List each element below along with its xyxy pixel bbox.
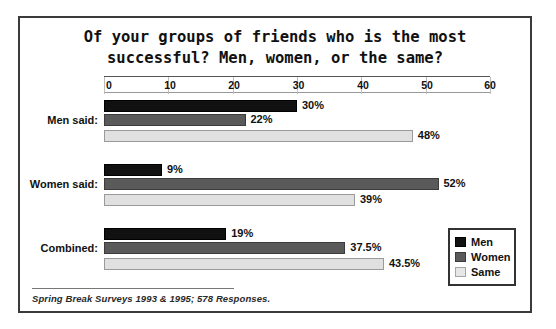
bar-value-women-said-same: 39% xyxy=(360,193,382,205)
legend-label-women: Women xyxy=(471,251,511,263)
bar-combined-same xyxy=(104,258,384,270)
x-axis-label-50: 50 xyxy=(421,79,433,91)
bar-men-said-men xyxy=(104,100,297,112)
bar-value-combined-men: 19% xyxy=(231,227,253,239)
bar-men-said-same xyxy=(104,130,413,142)
legend-item-men: Men xyxy=(455,234,509,249)
x-axis-label-20: 20 xyxy=(228,79,240,91)
legend-item-women: Women xyxy=(455,249,509,264)
chart-title-line-1: Of your groups of friends who is the mos… xyxy=(20,27,530,48)
bar-value-men-said-women: 22% xyxy=(251,113,273,125)
plot-area: 0 10 20 30 40 50 60 Men said: 30% 22% 48… xyxy=(104,76,490,286)
bar-value-men-said-men: 30% xyxy=(302,99,324,111)
bar-men-said-women xyxy=(104,114,246,126)
bar-value-men-said-same: 48% xyxy=(418,129,440,141)
footnote: Spring Break Surveys 1993 & 1995; 578 Re… xyxy=(32,293,270,304)
bar-women-said-same xyxy=(104,194,355,206)
bar-combined-women xyxy=(104,242,345,254)
chart-title-line-2: successful? Men, women, or the same? xyxy=(20,48,530,69)
bar-value-combined-same: 43.5% xyxy=(389,257,420,269)
footnote-divider xyxy=(32,288,234,289)
x-axis-label-0: 0 xyxy=(106,79,112,91)
bar-women-said-women xyxy=(104,178,439,190)
legend-label-men: Men xyxy=(471,236,493,248)
legend-swatch-women-icon xyxy=(455,252,466,262)
x-axis-label-60: 60 xyxy=(484,79,496,91)
x-axis-tick-0 xyxy=(104,77,105,94)
legend-label-same: Same xyxy=(471,266,500,278)
legend-swatch-men-icon xyxy=(455,237,466,247)
bar-combined-men xyxy=(104,228,226,240)
bar-value-women-said-women: 52% xyxy=(444,177,466,189)
legend-swatch-same-icon xyxy=(455,267,466,277)
x-axis-label-10: 10 xyxy=(164,79,176,91)
x-axis-label-30: 30 xyxy=(293,79,305,91)
bar-value-women-said-men: 9% xyxy=(167,163,183,175)
legend: Men Women Same xyxy=(448,228,516,286)
bar-value-combined-women: 37.5% xyxy=(350,241,381,253)
legend-item-same: Same xyxy=(455,264,509,279)
category-label-combined: Combined: xyxy=(41,242,98,254)
bar-women-said-men xyxy=(104,164,162,176)
chart-title: Of your groups of friends who is the mos… xyxy=(20,27,530,69)
x-axis-label-40: 40 xyxy=(357,79,369,91)
chart-frame: Of your groups of friends who is the mos… xyxy=(18,16,532,313)
category-label-men-said: Men said: xyxy=(47,114,98,126)
category-label-women-said: Women said: xyxy=(30,178,98,190)
x-axis: 0 10 20 30 40 50 60 xyxy=(104,76,490,93)
